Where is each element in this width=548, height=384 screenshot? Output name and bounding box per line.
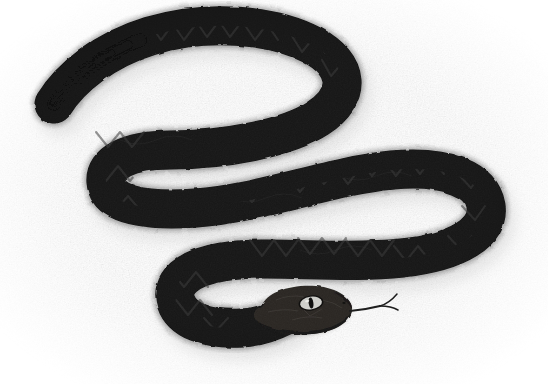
overlay-grain: [0, 0, 548, 384]
snake-illustration: A solid black snake drawn in a serpentin…: [0, 0, 548, 384]
illustration-canvas: [0, 0, 548, 384]
